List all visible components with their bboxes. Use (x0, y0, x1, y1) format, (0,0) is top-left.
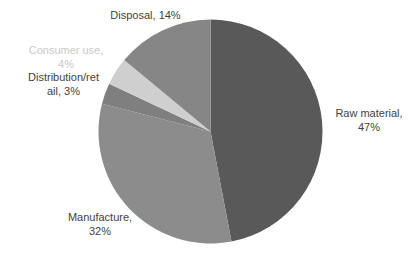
pie-label-manufacture: Manufacture, 32% (45, 211, 155, 238)
pie-label-raw-material: Raw material, 47% (322, 107, 416, 134)
pie-label-disposal: Disposal, 14% (83, 9, 208, 23)
pie-slices (99, 19, 323, 243)
pie-label-distribution-retail: Distribution/ret ail, 3% (10, 71, 117, 98)
pie-slice-raw-material[interactable] (211, 19, 323, 241)
pie-chart-figure: Disposal, 14% Consumer use, 4% Distribut… (0, 0, 417, 259)
pie-label-consumer-use: Consumer use, 4% (12, 44, 120, 71)
